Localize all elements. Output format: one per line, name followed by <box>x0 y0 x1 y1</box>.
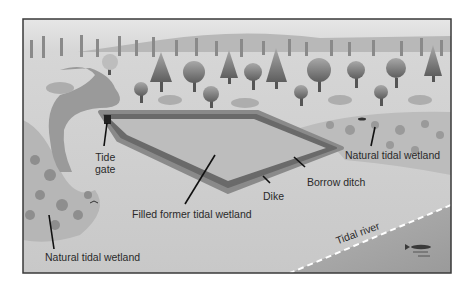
label-tide-gate-line1: Tide <box>95 151 115 163</box>
tide-gate-icon <box>104 115 111 124</box>
wetland-illustration <box>0 0 472 291</box>
label-natural-tidal-wetland-right: Natural tidal wetland <box>345 149 440 161</box>
label-tide-gate: Tide gate <box>95 151 115 175</box>
label-borrow-ditch: Borrow ditch <box>307 176 365 188</box>
label-dike: Dike <box>263 190 284 202</box>
label-filled-former-tidal-wetland: Filled former tidal wetland <box>132 208 252 220</box>
label-natural-tidal-wetland-left: Natural tidal wetland <box>45 251 140 263</box>
label-tide-gate-line2: gate <box>95 163 115 175</box>
bird-icon <box>358 118 366 121</box>
